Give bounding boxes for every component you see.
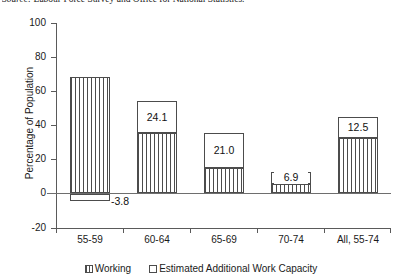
bar-group-55-59[interactable]: -3.8 (57, 12, 123, 229)
source-caption: Source: Labour Force Survey and Office f… (2, 0, 400, 5)
legend-item-working[interactable]: Working (85, 263, 132, 275)
x-axis-label-70-74: 70-74 (258, 234, 324, 245)
bar-group-65-69[interactable]: 21.0 (191, 12, 257, 229)
legend-swatch-hatched-icon (85, 265, 93, 273)
x-axis-label-all-55-74: All, 55-74 (325, 234, 391, 245)
bar-segment-working[interactable] (204, 168, 244, 193)
legend-swatch-empty-icon (149, 265, 157, 273)
x-axis-label-55-59: 55-59 (57, 234, 123, 245)
data-label-60-64: 24.1 (140, 111, 174, 124)
bar-segment-working[interactable] (137, 133, 177, 193)
bar-group-70-74[interactable]: 6.9 (258, 12, 324, 229)
y-axis-label-80: 80 (12, 52, 46, 62)
source-caption-prefix: Source: (2, 0, 31, 4)
x-tick-2 (190, 229, 191, 233)
bar-chart: Percentage of Population 100 80 60 40 20… (0, 12, 402, 279)
x-axis-label-65-69: 65-69 (191, 234, 257, 245)
y-tick-60 (51, 91, 56, 92)
y-tick-20 (51, 159, 56, 160)
bar-segment-working[interactable] (338, 138, 378, 193)
y-axis-label-100: 100 (12, 18, 46, 28)
x-tick-3 (257, 229, 258, 233)
y-tick-100 (51, 23, 56, 24)
legend-item-capacity[interactable]: Estimated Additional Work Capacity (149, 263, 317, 275)
data-label-all-55-74: 12.5 (341, 121, 375, 134)
y-axis-label-0: 0 (12, 188, 46, 198)
chart-legend: Working Estimated Additional Work Capaci… (0, 261, 402, 277)
bar-segment-working[interactable] (70, 77, 110, 193)
bar-group-all-55-74[interactable]: 12.5 (325, 12, 391, 229)
x-axis-label-60-64: 60-64 (124, 234, 190, 245)
bar-segment-working[interactable] (271, 184, 311, 193)
x-tick-4 (324, 229, 325, 233)
data-label-65-69: 21.0 (207, 144, 241, 157)
y-axis-label-40: 40 (12, 120, 46, 130)
y-tick-40 (51, 125, 56, 126)
y-tick-80 (51, 57, 56, 58)
data-label-70-74: 6.9 (274, 171, 308, 184)
y-axis-label-60: 60 (12, 86, 46, 96)
y-axis-label-neg20: -20 (12, 223, 46, 233)
bar-group-60-64[interactable]: 24.1 (124, 12, 190, 229)
legend-label-working: Working (95, 263, 132, 275)
x-tick-1 (123, 229, 124, 233)
y-axis-label-20: 20 (12, 154, 46, 164)
x-tick-0 (56, 229, 57, 233)
x-tick-5 (390, 229, 391, 233)
zero-baseline (47, 193, 391, 194)
bar-segment-capacity-negative[interactable] (70, 194, 110, 201)
legend-label-capacity: Estimated Additional Work Capacity (159, 263, 317, 275)
source-caption-text: Labour Force Survey and Office for Natio… (31, 0, 244, 4)
